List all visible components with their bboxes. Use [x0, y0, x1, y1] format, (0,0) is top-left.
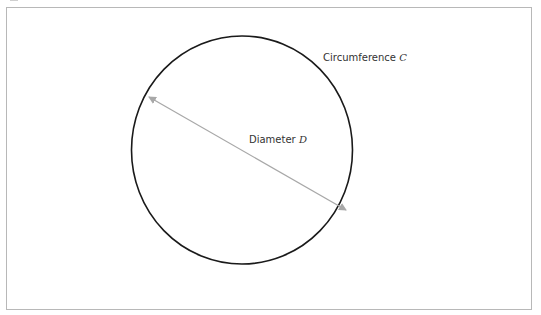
diameter-variable: D — [299, 134, 307, 145]
diameter-label-text: Diameter — [249, 134, 296, 145]
circumference-label: Circumference C — [323, 52, 407, 64]
circumference-variable: C — [399, 52, 407, 63]
circumference-label-text: Circumference — [323, 52, 396, 63]
diameter-arrow — [149, 97, 346, 210]
diameter-label: Diameter D — [249, 134, 307, 146]
circle-diagram — [0, 0, 541, 315]
